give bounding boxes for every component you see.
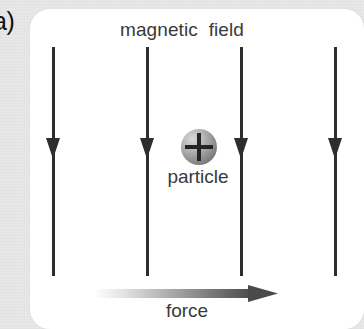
field-line-2 [146, 47, 149, 276]
particle-positive-charge-icon-vertical [197, 133, 201, 161]
force-label: force [96, 300, 278, 322]
field-line-1-arrowhead-icon [46, 138, 60, 159]
particle-label: particle [138, 166, 258, 188]
field-line-1 [52, 47, 55, 276]
figure-panel: a) magnetic field particle force [0, 0, 364, 329]
field-line-4 [334, 47, 337, 276]
field-line-3-arrowhead-icon [234, 138, 248, 159]
particle-sphere-icon [181, 129, 217, 165]
field-line-4-arrowhead-icon [328, 138, 342, 159]
field-line-2-arrowhead-icon [140, 138, 154, 159]
magnetic-field-title: magnetic field [0, 19, 364, 41]
field-line-3 [240, 47, 243, 276]
